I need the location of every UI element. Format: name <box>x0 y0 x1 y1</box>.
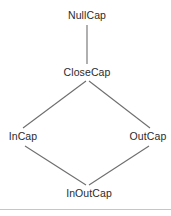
node-closecap[interactable]: CloseCap <box>47 67 127 78</box>
edge-closecap-incap <box>23 81 86 128</box>
footer-divider <box>0 209 171 210</box>
edge-closecap-outcap <box>89 81 150 128</box>
node-incap[interactable]: InCap <box>0 131 46 142</box>
diagram-edges <box>0 0 171 216</box>
diagram-canvas: NullCap CloseCap InCap OutCap InOutCap <box>0 0 171 216</box>
node-outcap[interactable]: OutCap <box>125 131 171 142</box>
edge-incap-inoutcap <box>25 146 86 185</box>
edge-outcap-inoutcap <box>89 146 149 185</box>
node-inoutcap[interactable]: InOutCap <box>49 188 129 199</box>
node-nullcap[interactable]: NullCap <box>47 10 127 21</box>
